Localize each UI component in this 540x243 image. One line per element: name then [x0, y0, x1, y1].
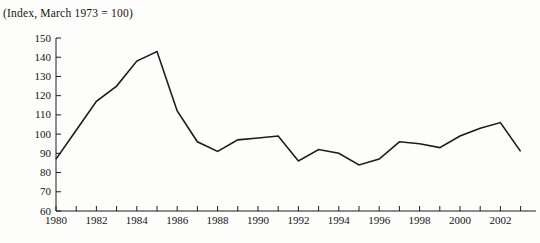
x-tick-label: 1982 — [85, 214, 107, 226]
y-tick-label: 80 — [40, 166, 52, 178]
x-tick-label: 1980 — [45, 214, 68, 226]
y-tick-label: 150 — [35, 32, 52, 44]
y-tick-label: 110 — [35, 108, 52, 120]
x-tick-label: 2002 — [489, 214, 511, 226]
y-tick-label: 120 — [35, 89, 52, 101]
x-tick-label: 1996 — [368, 214, 391, 226]
y-tick-label: 70 — [40, 185, 52, 197]
y-tick-label: 140 — [35, 51, 52, 63]
x-tick-label: 1994 — [328, 214, 351, 226]
y-tick-label: 100 — [35, 128, 52, 140]
x-tick-label: 1990 — [247, 214, 270, 226]
line-chart: 6070809010011012013014015019801982198419… — [0, 0, 540, 243]
x-tick-label: 1992 — [287, 214, 309, 226]
x-tick-label: 1998 — [409, 214, 432, 226]
y-tick-label: 90 — [40, 147, 52, 159]
x-tick-label: 1986 — [166, 214, 189, 226]
x-tick-label: 1984 — [126, 214, 149, 226]
x-tick-label: 2000 — [449, 214, 472, 226]
x-tick-label: 1988 — [207, 214, 230, 226]
dollar-index-line — [56, 52, 521, 165]
y-tick-label: 130 — [35, 70, 52, 82]
